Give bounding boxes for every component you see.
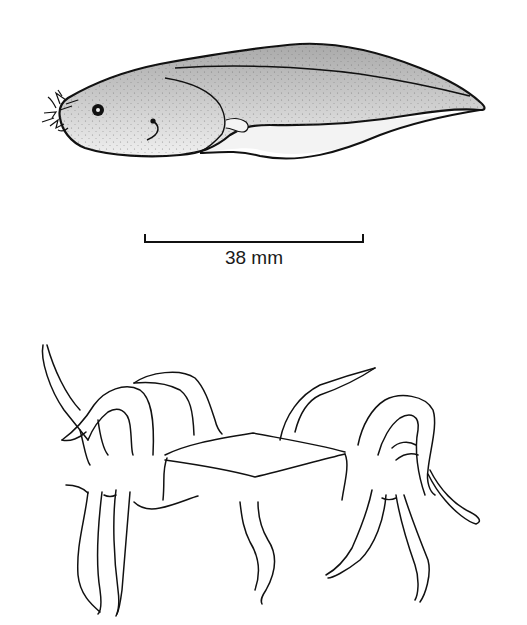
figure: 38 mm [0, 0, 527, 625]
tentacle-figure [0, 0, 527, 625]
